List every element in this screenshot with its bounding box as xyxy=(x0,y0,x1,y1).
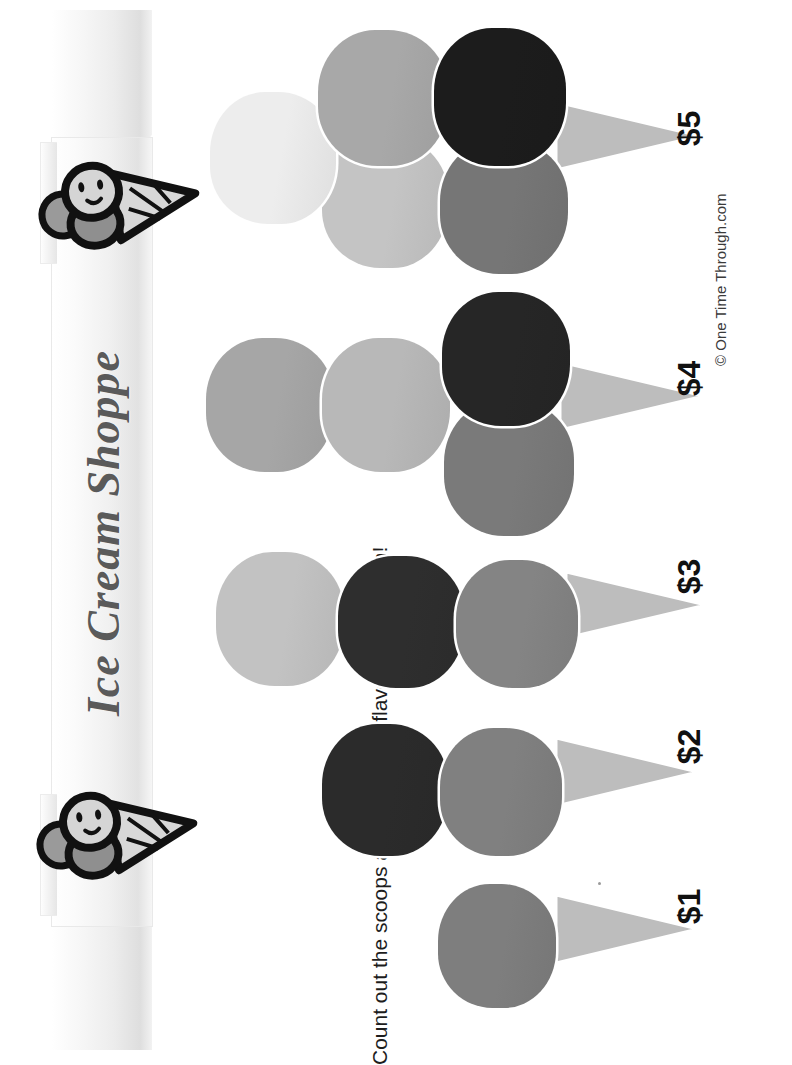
price-label-3: $3 xyxy=(671,559,708,595)
price-label-4: $4 xyxy=(671,361,708,397)
scoop xyxy=(322,724,448,856)
scoop xyxy=(318,30,448,166)
scoop xyxy=(322,338,450,472)
scoop xyxy=(440,728,562,856)
scoop xyxy=(442,292,570,426)
price-label-2: $2 xyxy=(671,729,708,765)
paper-speck xyxy=(598,882,601,885)
scoop xyxy=(216,552,344,686)
copyright-text: © One Time Through.com xyxy=(709,76,731,366)
scoop xyxy=(438,884,556,1008)
scoop xyxy=(456,560,578,688)
scoop xyxy=(206,338,334,472)
price-label-1: $1 xyxy=(671,889,708,925)
scoop xyxy=(338,556,464,688)
price-label-5: $5 xyxy=(671,111,708,147)
scoop xyxy=(434,28,566,166)
scoop xyxy=(210,92,336,224)
